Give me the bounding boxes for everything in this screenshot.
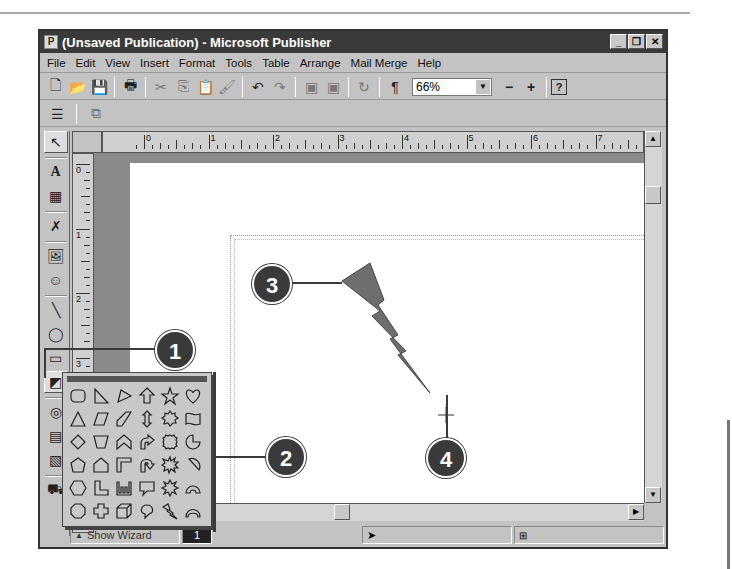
pie-icon[interactable] [182,431,204,453]
horizontal-scroll-thumb[interactable] [334,504,350,520]
up-down-arrow-icon[interactable] [136,408,158,430]
ruler-tick [84,212,90,213]
scroll-right-button[interactable]: ▶ [628,504,644,520]
octagon-icon[interactable] [67,500,89,522]
open-icon[interactable]: 📂 [66,76,88,98]
table-frame-icon[interactable]: ▦ [44,185,68,207]
u-turn-arrow-icon[interactable] [136,454,158,476]
moon-arch-icon[interactable] [182,500,204,522]
undo-icon[interactable]: ↶ [247,76,269,98]
diagonal-band-icon[interactable] [113,408,135,430]
minimize-button[interactable]: _ [610,34,627,49]
corner-icon[interactable] [113,454,135,476]
pilcrow-icon[interactable]: ¶ [384,76,406,98]
menu-table[interactable]: Table [257,57,295,69]
send-to-back-icon[interactable]: ▣ [322,76,344,98]
horizontal-ruler[interactable]: 012345678 [102,131,644,153]
menu-tools[interactable]: Tools [220,57,257,69]
pointer-icon[interactable]: ↖ [44,131,68,153]
scroll-up-button[interactable]: ▲ [645,131,661,147]
ruler-label: 5 [469,133,474,143]
thought-bubble-icon[interactable] [136,500,158,522]
ruler-corner[interactable] [72,131,102,153]
zoom-value: 66% [416,80,440,94]
diamond-icon[interactable] [67,431,89,453]
ruler-tick [192,143,193,149]
vertical-scrollbar[interactable]: ▲ ▼ [644,131,662,503]
menu-edit[interactable]: Edit [71,57,101,69]
bent-arrow-icon[interactable] [136,431,158,453]
group-icon[interactable]: ⧉ [85,103,107,125]
cross-icon[interactable] [90,500,112,522]
pentagon-icon[interactable] [67,454,89,476]
scroll-down-button[interactable]: ▼ [645,487,661,503]
trapezoid-icon[interactable] [90,431,112,453]
menu-arrange[interactable]: Arrange [295,57,346,69]
ruler-label: 4 [404,133,409,143]
chevron-icon[interactable] [113,431,135,453]
zoom-select[interactable]: 66% ▼ [412,78,492,96]
star-icon[interactable] [159,385,181,407]
seal-icon[interactable] [159,408,181,430]
ruler-tick [386,143,387,149]
align-icon[interactable]: ☰ [46,103,68,125]
page-navigator[interactable]: 1 [182,526,212,544]
text-frame-icon[interactable]: A [44,161,68,183]
menu-file[interactable]: File [42,57,71,69]
picture-frame-icon[interactable]: 🖼 [44,245,68,267]
rounded-rectangle-icon[interactable] [67,385,89,407]
arch-icon[interactable] [182,477,204,499]
zoom-in-button[interactable]: + [520,76,542,98]
l-shape-icon[interactable] [90,477,112,499]
heart-icon[interactable] [182,385,204,407]
clip-gallery-icon[interactable]: ☺ [44,269,68,291]
explosion-icon[interactable] [159,454,181,476]
comb-icon[interactable] [113,477,135,499]
speech-bubble-icon[interactable] [136,477,158,499]
vertical-scroll-thumb[interactable] [645,186,661,204]
ruler-tick [434,140,435,149]
zoom-out-button[interactable]: − [498,76,520,98]
show-wizard-button[interactable]: ▲ Show Wizard [70,526,180,544]
menu-help[interactable]: Help [412,57,446,69]
new-icon[interactable]: 🗋 [44,76,66,98]
hexagon-icon[interactable] [67,477,89,499]
cube-icon[interactable] [113,500,135,522]
line-icon[interactable]: ╲ [44,299,68,321]
bring-to-front-icon[interactable]: ▣ [300,76,322,98]
wave-icon[interactable] [182,408,204,430]
pennant-icon[interactable] [113,385,135,407]
triangle-icon[interactable] [67,408,89,430]
chord-icon[interactable] [182,454,204,476]
menu-view[interactable]: View [100,57,135,69]
restore-button[interactable]: ❐ [628,34,645,49]
right-triangle-icon[interactable] [90,385,112,407]
close-button[interactable]: ✕ [646,34,663,49]
ruler-tick [467,135,468,149]
rotate-icon[interactable]: ↻ [353,76,375,98]
print-icon[interactable]: 🖶 [119,76,141,98]
publisher-app-icon[interactable]: P [44,35,58,49]
parallelogram-icon[interactable] [90,408,112,430]
ruler-label: 3 [76,359,81,369]
redo-icon[interactable]: ↷ [269,76,291,98]
menu-format[interactable]: Format [174,57,220,69]
palette-drag-handle[interactable] [67,376,207,382]
paste-icon[interactable]: 📋 [194,76,216,98]
cut-icon[interactable]: ✂ [150,76,172,98]
rectangle-icon[interactable]: ▭ [44,347,68,369]
lightning-bolt-icon[interactable] [159,500,181,522]
circle-seal-icon[interactable] [159,431,181,453]
help-button[interactable]: ? [551,79,567,95]
save-icon[interactable]: 💾 [88,76,110,98]
format-painter-icon[interactable]: 🖌 [216,76,238,98]
copy-icon[interactable]: ⎘ [172,76,194,98]
house-icon[interactable] [90,454,112,476]
oval-icon[interactable]: ◯ [44,323,68,345]
chevron-down-icon[interactable]: ▼ [476,80,490,94]
menu-insert[interactable]: Insert [135,57,174,69]
wordart-icon[interactable]: ✗ [44,215,68,237]
starburst-icon[interactable] [159,477,181,499]
menu-mail-merge[interactable]: Mail Merge [346,57,413,69]
up-arrow-icon[interactable] [136,385,158,407]
